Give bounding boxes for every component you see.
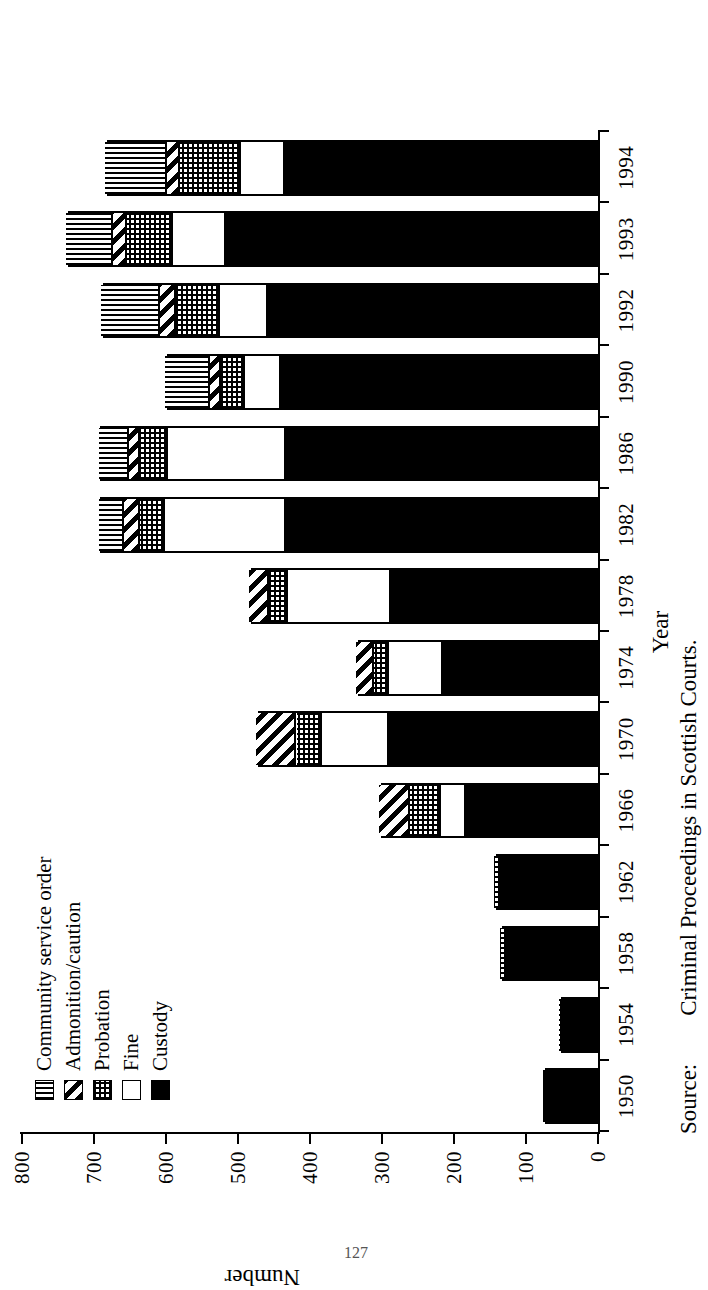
bar-1966[interactable] xyxy=(381,783,598,839)
legend-item[interactable]: Fine xyxy=(119,856,144,1100)
category-tick-label: 1993 xyxy=(614,217,639,261)
bar-segment-admonition-caution[interactable] xyxy=(256,713,296,765)
category-tick-label: 1990 xyxy=(614,360,639,404)
value-tick: 100 xyxy=(525,1133,527,1144)
bar-segment-admonition-caution[interactable] xyxy=(124,499,139,551)
bar-segment-custody[interactable] xyxy=(391,570,596,622)
value-tick: 0 xyxy=(597,1133,599,1144)
bar-segment-custody[interactable] xyxy=(443,642,596,694)
category-tick xyxy=(598,416,609,418)
bar-1986[interactable] xyxy=(100,426,598,482)
value-tick-label: 0 xyxy=(586,1151,611,1162)
bar-segment-community-service-order[interactable] xyxy=(165,356,210,408)
bar-segment-custody[interactable] xyxy=(285,142,596,194)
bar-1970[interactable] xyxy=(258,711,598,767)
bar-1974[interactable] xyxy=(358,640,598,696)
bar-segment-fine[interactable] xyxy=(322,713,390,765)
bar-segment-admonition-caution[interactable] xyxy=(160,285,176,337)
bar-segment-fine[interactable] xyxy=(288,570,391,622)
bar-segment-probation[interactable] xyxy=(494,856,502,908)
category-tick xyxy=(598,773,609,775)
bar-segment-probation[interactable] xyxy=(297,713,322,765)
bar-1950[interactable] xyxy=(545,1068,598,1124)
bar-segment-custody[interactable] xyxy=(502,856,596,908)
bar-segment-custody[interactable] xyxy=(268,285,596,337)
bar-segment-fine[interactable] xyxy=(165,499,287,551)
legend-item[interactable]: Community service order xyxy=(32,856,57,1100)
bar-1978[interactable] xyxy=(251,568,598,624)
bar-segment-custody[interactable] xyxy=(543,1070,596,1122)
bar-segment-custody[interactable] xyxy=(466,785,596,837)
bar-segment-community-service-order[interactable] xyxy=(66,213,113,265)
category-tick-label: 1994 xyxy=(614,146,639,190)
bar-1962[interactable] xyxy=(496,854,598,910)
bar-segment-custody[interactable] xyxy=(508,928,596,980)
legend-item-label: Custody xyxy=(148,1001,173,1071)
category-tick-label: 1950 xyxy=(614,1074,639,1118)
bar-segment-probation[interactable] xyxy=(140,499,165,551)
bar-segment-fine[interactable] xyxy=(241,142,285,194)
category-tick-label: 1986 xyxy=(614,431,639,475)
bar-segment-probation[interactable] xyxy=(500,928,508,980)
bar-segment-fine[interactable] xyxy=(220,285,268,337)
diagonal-stripes-swatch-icon xyxy=(64,1080,83,1100)
value-tick: 700 xyxy=(93,1133,95,1144)
bar-segment-fine[interactable] xyxy=(389,642,443,694)
bar-segment-custody[interactable] xyxy=(281,356,596,408)
category-tick-label: 1982 xyxy=(614,503,639,547)
legend-item[interactable]: Admonition/caution xyxy=(61,856,86,1100)
bar-segment-fine[interactable] xyxy=(168,428,287,480)
value-tick-label: 100 xyxy=(514,1151,539,1184)
bar-1958[interactable] xyxy=(502,926,598,982)
bar-segment-community-service-order[interactable] xyxy=(101,285,161,337)
source-label: Source: xyxy=(676,1064,701,1134)
bar-segment-community-service-order[interactable] xyxy=(99,428,130,480)
value-tick-label: 600 xyxy=(154,1151,179,1184)
category-tick-label: 1970 xyxy=(614,717,639,761)
bar-segment-admonition-caution[interactable] xyxy=(129,428,139,480)
category-tick xyxy=(598,844,609,846)
bar-1992[interactable] xyxy=(103,283,598,339)
legend-item-label: Probation xyxy=(90,989,115,1071)
bar-segment-community-service-order[interactable] xyxy=(99,499,125,551)
bar-segment-custody[interactable] xyxy=(226,213,596,265)
bar-1994[interactable] xyxy=(107,140,598,196)
bar-segment-custody[interactable] xyxy=(286,428,596,480)
bar-segment-probation[interactable] xyxy=(180,142,241,194)
value-tick: 800 xyxy=(21,1133,23,1144)
bar-segment-admonition-caution[interactable] xyxy=(379,785,410,837)
bar-segment-probation[interactable] xyxy=(140,428,168,480)
legend-item[interactable]: Custody xyxy=(148,856,173,1100)
bar-segment-admonition-caution[interactable] xyxy=(113,213,127,265)
bar-segment-custody[interactable] xyxy=(286,499,596,551)
bar-1990[interactable] xyxy=(167,354,598,410)
bar-segment-community-service-order[interactable] xyxy=(105,142,167,194)
fine-dot-grid-swatch-icon xyxy=(93,1080,112,1100)
bar-1993[interactable] xyxy=(68,211,598,267)
bar-segment-fine[interactable] xyxy=(245,356,281,408)
value-tick-label: 800 xyxy=(10,1151,35,1184)
value-tick: 500 xyxy=(237,1133,239,1144)
bar-segment-probation[interactable] xyxy=(221,356,245,408)
value-tick-label: 300 xyxy=(370,1151,395,1184)
value-tick: 300 xyxy=(381,1133,383,1144)
bar-segment-admonition-caution[interactable] xyxy=(249,570,269,622)
bar-segment-probation[interactable] xyxy=(559,999,563,1051)
bar-segment-admonition-caution[interactable] xyxy=(210,356,221,408)
category-tick-label: 1992 xyxy=(614,289,639,333)
bar-segment-probation[interactable] xyxy=(127,213,173,265)
bar-segment-custody[interactable] xyxy=(389,713,596,765)
solid-black-swatch-icon xyxy=(151,1080,170,1100)
bar-segment-fine[interactable] xyxy=(173,213,226,265)
bar-segment-probation[interactable] xyxy=(410,785,441,837)
bar-1954[interactable] xyxy=(561,997,598,1053)
bar-segment-probation[interactable] xyxy=(269,570,288,622)
bar-segment-probation[interactable] xyxy=(176,285,220,337)
legend-item[interactable]: Probation xyxy=(90,856,115,1100)
bar-1982[interactable] xyxy=(100,497,598,553)
bar-segment-probation[interactable] xyxy=(374,642,390,694)
bar-segment-admonition-caution[interactable] xyxy=(356,642,373,694)
bar-segment-custody[interactable] xyxy=(564,999,596,1051)
bar-segment-admonition-caution[interactable] xyxy=(167,142,180,194)
bar-segment-fine[interactable] xyxy=(441,785,466,837)
